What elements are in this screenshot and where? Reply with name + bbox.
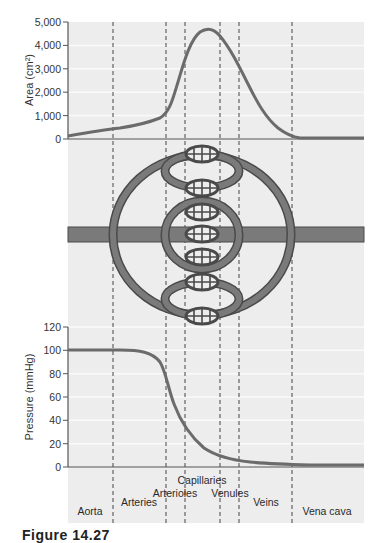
area-y-axis: 5,000 4,000 3,000 2,000 1,000 0 Area (cm… (23, 16, 68, 145)
figure-caption: Figure 14.27 (22, 527, 110, 543)
label-arterioles: Arterioles (153, 487, 197, 499)
pressure-tick-100: 100 (43, 344, 61, 356)
area-tick-5000: 5,000 (35, 16, 61, 28)
pressure-axis-label: Pressure (mmHg) (23, 354, 35, 441)
label-venules: Venules (211, 487, 248, 499)
pressure-tick-0: 0 (55, 461, 61, 473)
pressure-tick-120: 120 (43, 321, 61, 333)
plot-background (68, 22, 364, 523)
label-aorta: Aorta (77, 505, 102, 517)
pressure-y-axis: 120 100 80 60 40 20 0 Pressure (mmHg) (23, 321, 68, 473)
pressure-tick-80: 80 (49, 368, 61, 380)
area-tick-0: 0 (55, 133, 61, 145)
area-tick-3000: 3,000 (35, 63, 61, 75)
area-tick-1000: 1,000 (35, 110, 61, 122)
pressure-tick-60: 60 (49, 391, 61, 403)
area-tick-4000: 4,000 (35, 39, 61, 51)
pressure-tick-40: 40 (49, 414, 61, 426)
pressure-tick-20: 20 (49, 438, 61, 450)
label-capillaries: Capillaries (177, 474, 226, 486)
label-veins: Veins (253, 496, 279, 508)
label-arteries: Arteries (121, 496, 157, 508)
area-axis-label: Area (cm²) (23, 54, 35, 106)
area-tick-2000: 2,000 (35, 86, 61, 98)
label-vena-cava: Vena cava (302, 505, 351, 517)
